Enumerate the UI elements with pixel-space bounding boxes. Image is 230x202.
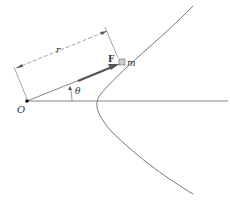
dimension-extension-left: [14, 67, 27, 99]
radius-label: r: [56, 45, 61, 55]
mass-particle: [119, 59, 125, 65]
hyperbolic-path: [97, 6, 193, 194]
dimension-line-r: [16, 31, 107, 68]
force-arrow-shaft: [78, 67, 112, 81]
dimension-arrowhead-left: [16, 64, 23, 68]
origin-point: [25, 99, 29, 103]
hyperbolic-trajectory-diagram: O r F m θ: [0, 0, 230, 202]
force-label: F: [108, 54, 115, 64]
mass-label: m: [127, 58, 136, 68]
angle-label: θ: [75, 86, 81, 96]
dimension-arrowhead-right: [100, 31, 107, 35]
angle-arrowhead: [68, 86, 72, 90]
origin-label: O: [17, 104, 25, 115]
